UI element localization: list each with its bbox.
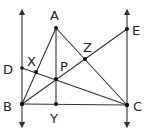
point-P xyxy=(54,77,58,81)
label-E: E xyxy=(132,23,140,38)
point-D xyxy=(20,66,24,70)
label-P: P xyxy=(60,59,68,74)
label-Z: Z xyxy=(83,40,92,55)
label-X: X xyxy=(27,54,36,69)
point-B xyxy=(20,102,24,106)
segment-DC xyxy=(22,68,127,105)
label-B: B xyxy=(3,99,12,114)
segment-BE xyxy=(22,29,127,104)
point-Y xyxy=(54,102,58,106)
label-Y: Y xyxy=(49,111,58,126)
label-D: D xyxy=(3,62,13,77)
label-C: C xyxy=(133,99,142,114)
label-A: A xyxy=(50,8,59,23)
geometry-diagram: A B C D E X Y Z P xyxy=(0,0,148,131)
point-Z xyxy=(83,57,87,61)
point-X xyxy=(34,70,38,74)
segment-BC xyxy=(22,104,127,105)
point-C xyxy=(125,103,129,107)
point-A xyxy=(54,26,58,30)
point-E xyxy=(125,27,129,31)
